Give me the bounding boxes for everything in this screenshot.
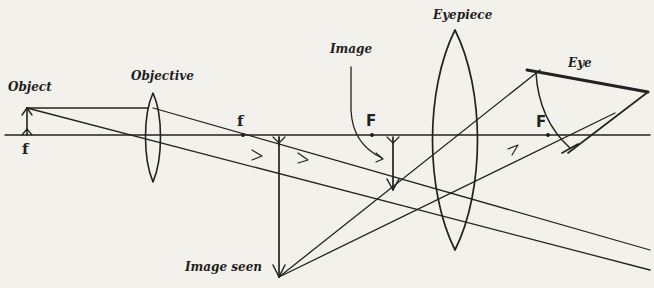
label-focal-eyepiece-left: F — [366, 112, 376, 130]
label-focal-objective-left: f — [22, 140, 28, 158]
objective-lens — [146, 93, 161, 182]
label-objective: Objective — [131, 69, 194, 83]
real-image-arrow-icon — [387, 137, 399, 190]
focal-point-objective — [241, 133, 244, 136]
eyepiece-lens — [433, 30, 478, 250]
label-image-seen: Image seen — [185, 260, 262, 274]
label-focal-eyepiece-right: F — [536, 113, 546, 131]
label-eyepiece: Eyepiece — [433, 8, 492, 22]
focal-point-eyepiece-right — [546, 133, 549, 136]
eye-icon — [527, 70, 648, 153]
label-focal-objective-right: f — [237, 112, 243, 130]
label-image: Image — [330, 42, 372, 56]
label-object: Object — [8, 80, 52, 94]
focal-point-eyepiece-left — [370, 133, 373, 136]
image-seen-arrow-icon — [273, 137, 285, 277]
object-arrow-icon — [22, 108, 32, 135]
ray-diagram — [0, 0, 654, 288]
label-eye: Eye — [568, 56, 592, 70]
